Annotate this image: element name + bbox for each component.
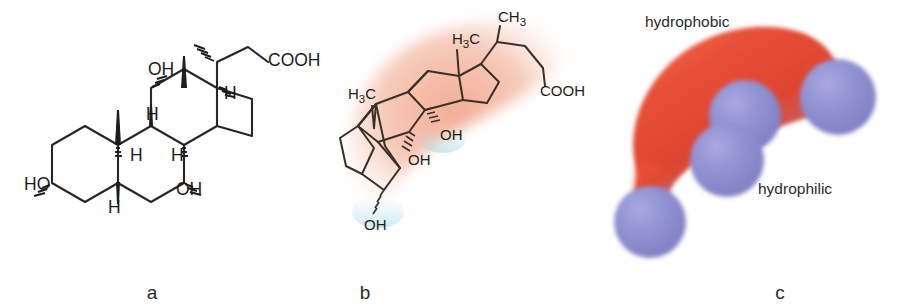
label-hydroxyl-12: OH	[148, 59, 174, 79]
methyl-c21-hash	[194, 45, 214, 61]
figure-cholic-acid-representations: COOH OH HO OH H H H H H	[0, 0, 910, 306]
label-hydrophobic: hydrophobic	[645, 13, 730, 30]
panel-label-a: a	[132, 282, 172, 304]
label-hydrogen-c9: H	[130, 145, 143, 165]
panel-a-drawing: COOH OH HO OH H H H H H	[0, 0, 330, 270]
methyl-c18-wedge	[181, 56, 187, 88]
oh-sphere-mid-lower	[690, 123, 764, 197]
label-hydroxyl-3: HO	[24, 174, 50, 194]
label-hydrogen-c8: H	[146, 104, 159, 124]
label-hydrogen-c14: H	[171, 145, 184, 165]
panel-b-3d-conformation: H3C CH3 COOH H3C OH OH OH	[320, 0, 600, 270]
panel-label-b: b	[345, 282, 385, 304]
label-cooh: COOH	[268, 50, 321, 70]
panel-c-drawing: hydrophobic hydrophilic	[590, 0, 910, 270]
label-hydrophilic: hydrophilic	[758, 180, 832, 197]
label-hydrogen-c5: H	[108, 197, 121, 217]
label-hydroxyl-7-b: OH	[408, 151, 431, 168]
panel-label-c: c	[760, 282, 800, 304]
hydrophobic-halo	[346, 21, 564, 223]
panel-a-skeletal-formula: COOH OH HO OH H H H H H	[0, 0, 330, 270]
label-cooh-b: COOH	[540, 82, 585, 99]
panel-c-space-filling-model: hydrophobic hydrophilic	[590, 0, 910, 270]
methyl-c19-wedge	[115, 110, 121, 145]
oh-sphere-bottom-left	[614, 186, 686, 258]
label-hydroxyl-7: OH	[176, 179, 202, 199]
label-hydroxyl-12-b: OH	[440, 126, 463, 143]
label-hydroxyl-3-b: OH	[364, 216, 387, 233]
oh-sphere-top-right	[800, 59, 876, 135]
panel-b-drawing: H3C CH3 COOH H3C OH OH OH	[320, 0, 600, 270]
label-hydrogen-c17: H	[224, 83, 237, 103]
